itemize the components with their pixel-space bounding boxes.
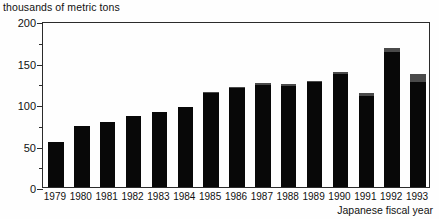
x-tick-label-1980: 1980 (70, 191, 92, 202)
x-tick-label-1982: 1982 (121, 191, 143, 202)
bar-segment-united-states-1980 (74, 126, 90, 187)
x-tick-label-1985: 1985 (199, 191, 221, 202)
plot-area: 050100150200 (42, 22, 430, 188)
bar-1980 (74, 126, 90, 187)
y-tick-label-100: 100 (18, 101, 36, 112)
bar-1990 (333, 72, 349, 187)
bar-1987 (255, 83, 271, 187)
bar-segment-united-states-1989 (307, 82, 323, 187)
bar-segment-united-states-1992 (384, 52, 400, 187)
bar-1992 (384, 48, 400, 187)
bar-segment-united-states-1987 (255, 85, 271, 187)
x-tick-label-1993: 1993 (406, 191, 428, 202)
bar-chart: thousands of metric tons United States O… (0, 0, 439, 219)
x-tick-label-1989: 1989 (302, 191, 324, 202)
y-tick-label-150: 150 (18, 59, 36, 70)
x-tick-label-1987: 1987 (251, 191, 273, 202)
bar-1983 (152, 112, 168, 187)
x-tick-label-1979: 1979 (44, 191, 66, 202)
bar-segment-united-states-1986 (229, 88, 245, 187)
bar-1991 (359, 93, 375, 187)
y-tick-label-50: 50 (24, 142, 36, 153)
bar-1982 (126, 116, 142, 187)
bar-segment-united-states-1990 (333, 74, 349, 187)
x-tick-label-1984: 1984 (173, 191, 195, 202)
bar-1984 (178, 107, 194, 187)
x-tick-label-1991: 1991 (354, 191, 376, 202)
x-axis-title: Japanese fiscal year (337, 204, 433, 216)
bar-segment-united-states-1993 (410, 82, 426, 187)
bar-1989 (307, 81, 323, 187)
bar-1986 (229, 87, 245, 187)
y-tick-0 (37, 189, 43, 190)
bar-segment-others-1993 (410, 74, 426, 81)
bar-series-container (43, 23, 429, 187)
bar-segment-united-states-1988 (281, 86, 297, 187)
x-tick-label-1988: 1988 (277, 191, 299, 202)
x-tick-label-1986: 1986 (225, 191, 247, 202)
bar-segment-united-states-1984 (178, 107, 194, 187)
bar-segment-united-states-1982 (126, 116, 142, 187)
bar-segment-united-states-1979 (48, 142, 64, 187)
x-tick-label-1981: 1981 (96, 191, 118, 202)
y-tick-label-200: 200 (18, 18, 36, 29)
bar-segment-united-states-1991 (359, 96, 375, 187)
bar-segment-united-states-1983 (152, 112, 168, 187)
x-tick-label-1983: 1983 (147, 191, 169, 202)
bar-segment-united-states-1985 (203, 93, 219, 187)
x-tick-label-1992: 1992 (380, 191, 402, 202)
bar-1985 (203, 92, 219, 187)
bar-1988 (281, 84, 297, 187)
bar-1981 (100, 122, 116, 187)
bar-1979 (48, 142, 64, 187)
y-axis-title: thousands of metric tons (3, 1, 120, 13)
x-tick-label-1990: 1990 (328, 191, 350, 202)
bar-1993 (410, 74, 426, 187)
bar-segment-united-states-1981 (100, 122, 116, 187)
y-tick-label-0: 0 (30, 184, 36, 195)
